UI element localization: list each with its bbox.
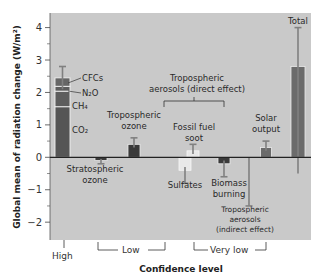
bar-segment-co2 xyxy=(55,107,70,158)
label-biomass-1: Biomass xyxy=(211,178,247,188)
radiative-forcing-chart: Global mean of radiation change (W/m²) −… xyxy=(0,0,320,279)
label-fossil-1: Fossil fuel xyxy=(173,122,215,132)
label-indirect-3: (indirect effect) xyxy=(216,225,274,234)
conf-label-very-low: Very low xyxy=(210,245,248,255)
label-strat-ozone-2: ozone xyxy=(82,175,107,185)
label-co2: CO₂ xyxy=(72,125,88,135)
y-tick-label: 0 xyxy=(36,152,42,163)
bar-segment-ch4 xyxy=(55,91,70,107)
label-solar-1: Solar xyxy=(255,113,277,123)
label-total: Total xyxy=(287,16,308,26)
label-indirect-2: aerosols xyxy=(229,215,260,224)
label-strat-ozone-1: Stratospheric xyxy=(67,164,124,174)
y-tick-label: 4 xyxy=(36,22,42,33)
conf-label-low: Low xyxy=(122,245,140,255)
label-cfcs: CFCs xyxy=(82,73,104,83)
y-tick-label: 2 xyxy=(36,87,42,98)
label-biomass-2: burning xyxy=(213,189,246,199)
y-tick-label: 3 xyxy=(36,55,42,66)
y-axis-title: Global mean of radiation change (W/m²) xyxy=(12,25,22,229)
label-trop-ozone-2: ozone xyxy=(121,121,146,131)
label-trop-aerosols-direct-2: aerosols (direct effect) xyxy=(149,84,245,94)
label-solar-2: output xyxy=(252,124,281,134)
y-tick-label: 1 xyxy=(36,119,42,130)
x-axis-title: Confidence level xyxy=(139,264,223,274)
y-axis: −2−101234 xyxy=(27,13,50,240)
label-ch4: CH₄ xyxy=(72,101,88,111)
conf-label-high: High xyxy=(52,251,73,261)
label-trop-ozone-1: Tropospheric xyxy=(106,110,161,120)
label-sulfates: Sulfates xyxy=(168,180,203,190)
label-fossil-2: soot xyxy=(185,133,204,143)
label-indirect-1: Tropospheric xyxy=(220,205,269,214)
label-n2o: N₂O xyxy=(82,88,99,98)
y-tick-label: −2 xyxy=(27,217,42,228)
label-trop-aerosols-direct-1: Tropospheric xyxy=(169,73,224,83)
y-tick-label: −1 xyxy=(27,184,42,195)
